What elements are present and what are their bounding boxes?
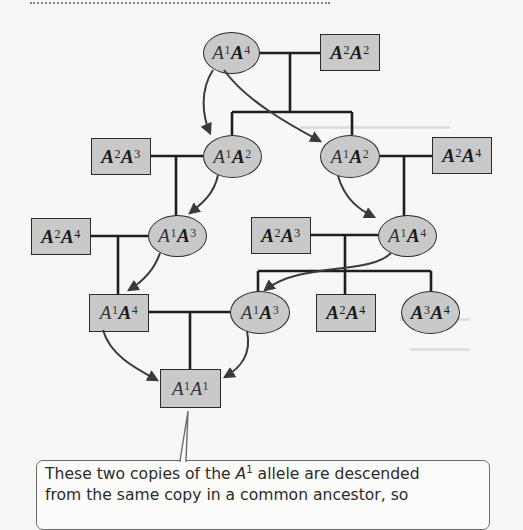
pedigree-node-inbred-offspring: A1A1 — [160, 369, 221, 408]
pedigree-node-g3-right-female: A1A4 — [378, 215, 437, 257]
pedigree-node-g1-female: A1A4 — [203, 32, 260, 74]
pedigree-node-g4-female: A1A3 — [230, 291, 290, 334]
pedigree-node-g2-right-male: A2A4 — [432, 137, 492, 174]
pedigree-node-g4-sibling-male: A2A4 — [316, 294, 376, 332]
pedigree-node-g3-left-female: A1A3 — [148, 215, 207, 257]
pedigree-node-g2-right-female: A1A2 — [320, 135, 380, 178]
pedigree-node-g2-left-male: A2A3 — [91, 138, 151, 175]
pedigree-node-g4-male: A1A4 — [89, 294, 149, 332]
explanation-callout: These two copies of the A1 allele are de… — [36, 460, 490, 530]
callout-line-2: from the same copy in a common ancestor,… — [45, 485, 481, 506]
pedigree-node-g4-sibling-female: A3A4 — [401, 291, 460, 334]
pedigree-node-g3-left-male: A2A4 — [31, 218, 91, 255]
callout-line-1: These two copies of the A1 allele are de… — [45, 464, 481, 485]
pedigree-node-g2-left-female: A1A2 — [203, 135, 262, 178]
pedigree-node-g3-right-male: A2A3 — [251, 217, 311, 254]
pedigree-node-g1-male: A2A2 — [320, 34, 380, 71]
